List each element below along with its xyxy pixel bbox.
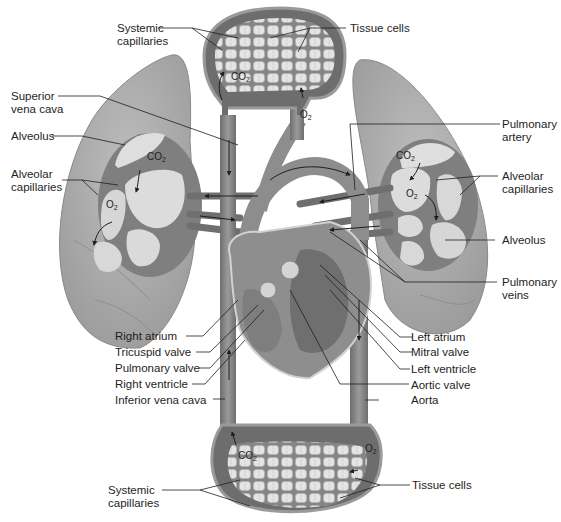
label-tricuspid-valve: Tricuspid valve [115,346,191,359]
label-right-ventricle: Right ventricle [115,378,188,391]
label-top-tissue-cells: Tissue cells [350,22,410,35]
label-left-alveolus: Alveolus [11,130,54,143]
label-pulmonary-artery: Pulmonary artery [502,118,557,144]
top-capillary-bed [204,8,345,115]
label-inferior-vena-cava: Inferior vena cava [115,394,206,407]
label-right-alveolus: Alveolus [502,234,545,247]
label-top-systemic-capillaries: Systemic capillaries [117,22,168,48]
bottom-capillary-bed [212,425,381,512]
label-mitral-valve: Mitral valve [411,346,469,359]
label-left-ventricle: Left ventricle [411,363,476,376]
label-left-atrium: Left atrium [411,331,465,344]
label-right-atrium: Right atrium [115,330,177,343]
label-aorta: Aorta [411,394,439,407]
label-bottom-tissue-cells: Tissue cells [412,479,472,492]
right-alveoli [378,139,478,271]
label-left-alveolar-capillaries: Alveolar capillaries [11,168,62,194]
label-aortic-valve: Aortic valve [411,379,470,392]
svg-text:O2: O2 [300,109,312,121]
label-pulmonary-valve: Pulmonary valve [115,362,200,375]
label-right-alveolar-capillaries: Alveolar capillaries [502,170,553,196]
label-superior-vena-cava: Superior vena cava [11,90,63,116]
label-pulmonary-veins: Pulmonary veins [502,276,557,302]
circulation-diagram: CO2 O2 CO2 O2 CO2 O2 CO2 O2 [0,0,561,522]
label-bottom-systemic-capillaries: Systemic capillaries [108,484,159,510]
